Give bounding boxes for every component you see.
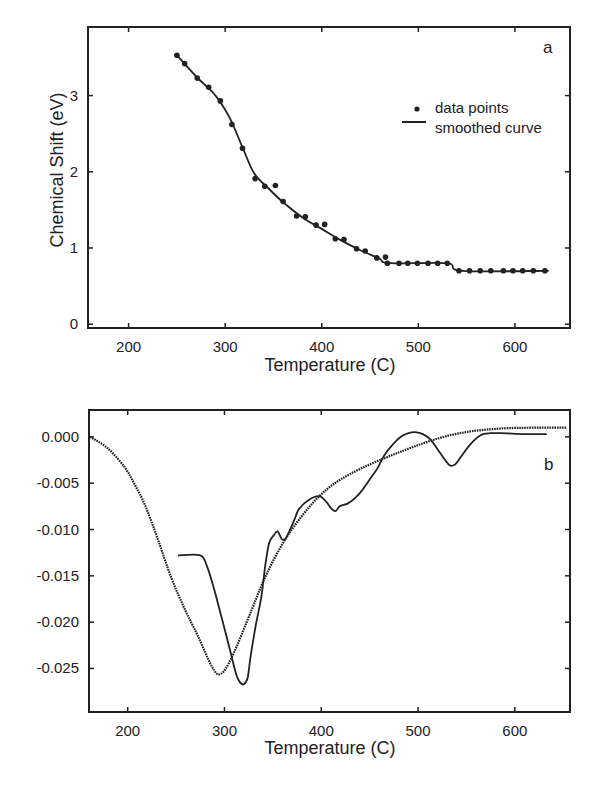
data-point xyxy=(322,222,328,228)
x-tick-label: 400 xyxy=(309,722,334,739)
chart-a-plot-area xyxy=(174,52,549,273)
chart-b-panel-label: b xyxy=(544,455,553,474)
chart-b-plot-area xyxy=(90,428,567,685)
legend-dot-icon xyxy=(414,106,419,111)
data-point xyxy=(383,254,389,260)
legend-label-smoothed-curve: smoothed curve xyxy=(435,119,542,136)
x-tick-label: 200 xyxy=(115,722,140,739)
x-tick-label: 500 xyxy=(406,722,431,739)
chart-b: 2003004005006000.000-0.005-0.010-0.015-0… xyxy=(36,410,570,758)
chart-b-xlabel: Temperature (C) xyxy=(264,738,395,758)
chart-a-panel-label: a xyxy=(543,38,553,57)
x-tick-label: 300 xyxy=(212,722,237,739)
legend-label-data-points: data points xyxy=(435,99,508,116)
chart-a-ylabel: Chemical Shift (eV) xyxy=(47,92,67,247)
chart-a: 2003004005006000123 a data points smooth… xyxy=(47,27,570,375)
y-tick-label: 0.000 xyxy=(41,428,79,445)
x-tick-label: 200 xyxy=(116,338,141,355)
chart-a-frame xyxy=(88,27,570,328)
chart-a-xlabel: Temperature (C) xyxy=(264,355,395,375)
chart-b-ticks: 2003004005006000.000-0.005-0.010-0.015-0… xyxy=(36,410,570,739)
y-tick-label: -0.010 xyxy=(36,521,79,538)
x-tick-label: 400 xyxy=(309,338,334,355)
y-tick-label: -0.015 xyxy=(36,567,79,584)
data-point xyxy=(273,183,279,189)
y-tick-label: -0.020 xyxy=(36,613,79,630)
y-tick-label: 3 xyxy=(70,87,78,104)
y-tick-label: -0.005 xyxy=(36,474,79,491)
chart-a-ticks: 2003004005006000123 xyxy=(70,27,570,355)
x-tick-label: 300 xyxy=(213,338,238,355)
y-tick-label: 1 xyxy=(70,239,78,256)
x-tick-label: 600 xyxy=(502,722,527,739)
curve-line xyxy=(177,55,549,271)
chart-b-frame xyxy=(89,410,570,712)
x-tick-label: 600 xyxy=(502,338,527,355)
curve-line xyxy=(178,432,547,684)
y-tick-label: -0.025 xyxy=(36,659,79,676)
chart-a-legend: data points smoothed curve xyxy=(402,99,542,136)
smooth-dotted-curve xyxy=(90,428,567,675)
y-tick-label: 2 xyxy=(70,163,78,180)
figure: 2003004005006000123 a data points smooth… xyxy=(0,0,599,787)
y-tick-label: 0 xyxy=(70,315,78,332)
x-tick-label: 500 xyxy=(406,338,431,355)
